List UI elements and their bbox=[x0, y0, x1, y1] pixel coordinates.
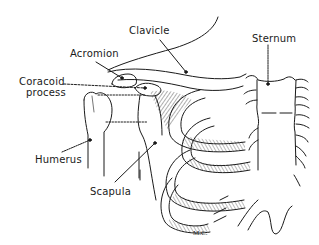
acromion-bone bbox=[112, 74, 137, 88]
sternum-bone bbox=[244, 45, 309, 186]
clavicle-leader-line bbox=[160, 40, 186, 72]
humerus-leader-line bbox=[62, 140, 90, 152]
scapula-bone bbox=[138, 95, 156, 200]
label-sternum: Sternum bbox=[252, 33, 296, 44]
anatomy-diagram: Clavicle Acromion Coracoid process Stern… bbox=[0, 0, 319, 245]
artist-signature: M.C. bbox=[193, 229, 207, 237]
label-acromion: Acromion bbox=[70, 48, 119, 59]
label-scapula: Scapula bbox=[90, 186, 131, 197]
label-coracoid-line1: Coracoid bbox=[19, 76, 65, 87]
label-coracoid-line2: process bbox=[26, 87, 66, 98]
label-clavicle: Clavicle bbox=[129, 25, 170, 36]
label-humerus: Humerus bbox=[35, 154, 82, 165]
